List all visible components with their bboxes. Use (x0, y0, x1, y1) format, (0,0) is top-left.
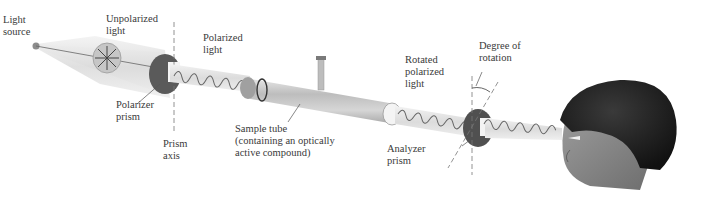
rotation-leader (476, 72, 482, 86)
sample-tube (240, 56, 401, 125)
label-prism-axis: Prism axis (163, 138, 188, 162)
label-degree-of-rotation: Degree of rotation (479, 40, 521, 64)
rotation-arc (472, 88, 490, 93)
sample-leader (288, 104, 300, 122)
label-unpolarized-light: Unpolarized light (106, 13, 158, 37)
label-polarizer-prism: Polarizer prism (116, 99, 154, 123)
label-sample-tube: Sample tube (containing an optically act… (235, 123, 335, 159)
unpolarized-light-icon (93, 43, 121, 73)
label-analyzer-prism: Analyzer prism (387, 143, 425, 167)
label-light-source: Light source (3, 14, 30, 38)
label-rotated-polarized-light: Rotated polarized light (405, 54, 444, 90)
observer-head (560, 80, 677, 190)
label-polarized-light: Polarized light (203, 32, 243, 56)
